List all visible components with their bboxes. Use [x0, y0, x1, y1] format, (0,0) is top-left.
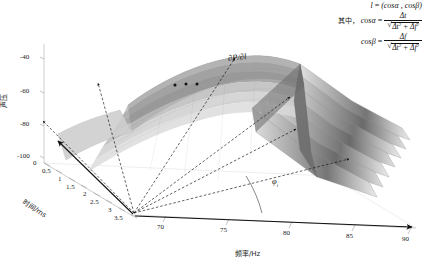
equation-block: l = (cosα , cosβ) 其中， cosα = Δt Δt2 + Δf… — [272, 2, 422, 53]
x-tick-label-3: 85 — [346, 232, 353, 240]
equation-1-equals: = — [375, 2, 380, 10]
equation-3-fraction: Δf Δt2 + Δf2 — [384, 33, 422, 52]
equation-3-numerator: Δf — [397, 33, 410, 41]
angle-arc — [246, 176, 262, 213]
x-axis-title: 频率/Hz — [235, 248, 260, 258]
angle-label: φi — [272, 176, 278, 188]
y-tick-label-1: 0.5 — [42, 167, 51, 175]
y-tick-label-2: 1 — [58, 175, 62, 183]
z-tick-label-1: -60 — [20, 87, 29, 95]
x-tick-label-1: 75 — [220, 226, 227, 234]
z-axis-title: 声压 — [0, 94, 8, 108]
gradient-vector-label: ∂P/∂l — [228, 51, 247, 63]
equation-2-equals: = — [378, 17, 383, 25]
y-tick-label-3: 1.5 — [66, 183, 75, 191]
equation-line-1: l = (cosα , cosβ) — [272, 2, 422, 10]
equation-2-denominator: Δt2 + Δf2 — [384, 20, 422, 31]
equation-3-equals: = — [378, 38, 383, 46]
z-tick-label-2: -80 — [20, 120, 29, 128]
equation-line-3: cosβ = Δf Δt2 + Δf2 — [272, 33, 422, 52]
equation-2-fraction: Δt Δt2 + Δf2 — [384, 12, 422, 31]
x-tick-label-4: 90 — [402, 235, 409, 243]
y-tick-label-0: 0 — [33, 159, 37, 167]
equation-1-rhs: (cosα , cosβ) — [381, 2, 422, 10]
y-tick-label-5: 2.5 — [90, 198, 99, 206]
y-tick-marks — [44, 163, 137, 218]
z-tick-label-0: -40 — [20, 53, 29, 61]
frequency-axis-arrow — [135, 216, 412, 227]
equation-2-numerator: Δt — [397, 12, 410, 20]
y-tick-label-6: 3 — [108, 206, 112, 214]
angle-subscript: i — [277, 183, 278, 188]
equation-1-lhs: l — [370, 2, 372, 10]
surface-mesh — [58, 56, 410, 197]
figure-stage: l = (cosα , cosβ) 其中， cosα = Δt Δt2 + Δf… — [0, 0, 426, 269]
equation-2-radical: Δt2 + Δf2 — [387, 22, 419, 31]
x-tick-label-2: 80 — [283, 229, 290, 237]
equation-2-prefix: 其中， — [338, 18, 359, 25]
y-tick-label-4: 2 — [83, 190, 87, 198]
y-tick-label-7: 3.5 — [114, 214, 123, 222]
gradient-arrow-5 — [134, 129, 296, 213]
z-tick-label-3: -100 — [17, 152, 30, 160]
z-tick-marks — [40, 57, 44, 158]
equation-3-radical: Δt2 + Δf2 — [387, 43, 419, 52]
equation-2-lhs: cosα — [361, 17, 376, 25]
equation-3-lhs: cosβ — [361, 38, 376, 46]
equation-3-denominator: Δt2 + Δf2 — [384, 40, 422, 51]
x-tick-label-0: 70 — [157, 223, 164, 231]
equation-line-2: 其中， cosα = Δt Δt2 + Δf2 — [272, 12, 422, 31]
